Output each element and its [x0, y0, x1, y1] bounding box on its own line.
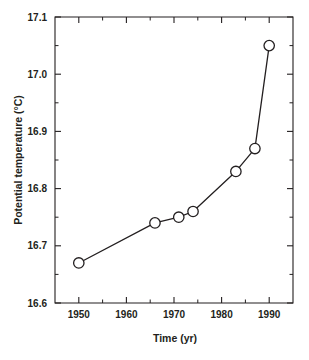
y-tick-label: 16.8 — [28, 183, 48, 194]
y-tick-label: 16.7 — [28, 240, 48, 251]
x-tick-label: 1980 — [210, 309, 233, 320]
axes — [55, 17, 293, 303]
data-point-marker — [264, 40, 274, 50]
data-series — [79, 46, 269, 263]
x-tick-label: 1970 — [163, 309, 186, 320]
data-point-marker — [188, 206, 198, 216]
y-tick-label: 16.9 — [28, 126, 48, 137]
data-point-marker — [174, 212, 184, 222]
y-tick-label: 17.1 — [28, 12, 48, 23]
y-tick-label: 16.6 — [28, 298, 48, 309]
data-markers — [74, 40, 275, 268]
y-axis-title: Potential temperature (°C) — [12, 95, 24, 225]
data-point-marker — [231, 166, 241, 176]
data-point-marker — [74, 258, 84, 268]
axis-ticks — [55, 17, 293, 303]
y-tick-label: 17.0 — [28, 69, 48, 80]
line-chart: 16.616.716.816.917.017.11950196019701980… — [0, 0, 309, 360]
x-tick-label: 1950 — [68, 309, 91, 320]
data-point-marker — [250, 143, 260, 153]
chart-figure: 16.616.716.816.917.017.11950196019701980… — [0, 0, 309, 360]
series-line — [79, 46, 269, 263]
axis-tick-labels: 16.616.716.816.917.017.11950196019701980… — [28, 12, 281, 320]
plot-frame — [55, 17, 293, 303]
data-point-marker — [150, 218, 160, 228]
x-tick-label: 1960 — [115, 309, 138, 320]
x-axis-title: Time (yr) — [153, 332, 197, 344]
x-tick-label: 1990 — [258, 309, 281, 320]
